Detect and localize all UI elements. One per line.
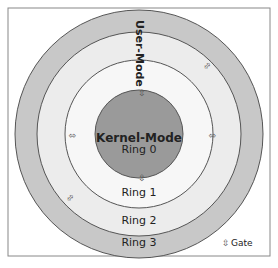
ring-0-label: Ring 0: [121, 143, 156, 156]
protection-rings-diagram: Kernel-Mode Ring 0 Ring 1 Ring 2 Ring 3 …: [0, 0, 278, 268]
legend-gate-icon: ⇳: [222, 238, 230, 248]
ring-3-label: Ring 3: [121, 236, 156, 249]
gate-icon: ⇳: [138, 88, 146, 98]
ring-1-label: Ring 1: [121, 186, 156, 199]
gate-icon: ⇳: [207, 132, 217, 140]
ring-2-label: Ring 2: [121, 214, 156, 227]
legend-gate-label: Gate: [231, 238, 253, 248]
gate-icon: ⇳: [67, 132, 77, 140]
user-mode-label: User-Mode: [133, 20, 146, 87]
gate-icon: ⇳: [138, 173, 146, 183]
